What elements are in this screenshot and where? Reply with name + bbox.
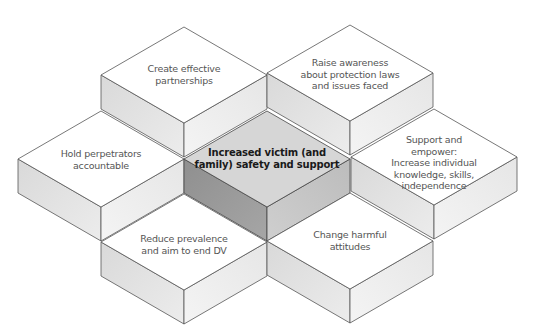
label-bottom-right: Change harmful attitudes — [313, 229, 386, 252]
label-bottom-left: Reduce prevalence and aim to end DV — [140, 233, 227, 256]
label-top-right: Raise awareness about protection laws an… — [301, 57, 400, 92]
label-right: Support and empower: Increase individual… — [384, 134, 484, 192]
label-left: Hold perpetrators accountable — [61, 148, 142, 171]
label-top-left: Create effective partnerships — [148, 63, 221, 86]
label-center: Increased victim (and family) safety and… — [195, 147, 340, 171]
